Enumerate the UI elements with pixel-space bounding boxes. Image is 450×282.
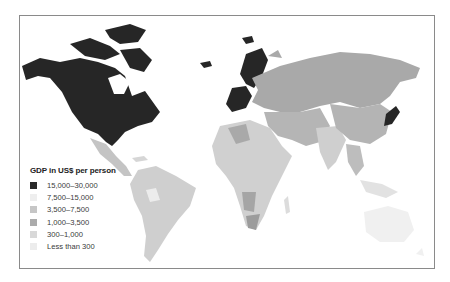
region-south-america — [130, 166, 196, 262]
legend-label: 1,000–3,500 — [47, 218, 89, 227]
legend-swatch — [30, 231, 37, 238]
region-madagascar — [284, 196, 290, 214]
legend-swatch — [30, 194, 37, 201]
legend-label: 3,500–7,500 — [47, 205, 89, 214]
legend-item: 1,000–3,500 — [30, 216, 116, 228]
region-kola — [268, 50, 282, 58]
legend-label: 15,000–30,000 — [47, 181, 98, 190]
legend-swatch — [30, 243, 37, 250]
legend-swatch — [30, 206, 37, 213]
legend-item: 7,500–15,000 — [30, 191, 116, 203]
legend-item: 15,000–30,000 — [30, 179, 116, 191]
region-caribbean — [132, 156, 148, 162]
legend-label: 7,500–15,000 — [47, 193, 93, 202]
region-russia — [252, 52, 420, 112]
region-iceland — [200, 61, 212, 68]
legend-label: 300–1,000 — [47, 230, 83, 239]
region-australia — [364, 206, 414, 242]
region-se-asia — [346, 144, 364, 176]
legend-item: Less than 300 — [30, 240, 116, 252]
region-new-zealand — [416, 248, 424, 256]
region-indonesia — [360, 180, 398, 198]
legend-item: 3,500–7,500 — [30, 204, 116, 216]
region-angola — [242, 192, 256, 212]
region-north-america — [22, 24, 160, 146]
legend-title: GDP in US$ per person — [30, 166, 116, 175]
region-south-africa — [246, 214, 260, 230]
region-western-europe — [226, 86, 252, 112]
legend: GDP in US$ per person 15,000–30,000 7,50… — [30, 166, 116, 253]
legend-swatch — [30, 182, 37, 189]
legend-item: 300–1,000 — [30, 228, 116, 240]
legend-swatch — [30, 219, 37, 226]
region-svalbard — [242, 36, 254, 44]
map-frame: GDP in US$ per person 15,000–30,000 7,50… — [19, 15, 435, 269]
legend-label: Less than 300 — [47, 242, 95, 251]
